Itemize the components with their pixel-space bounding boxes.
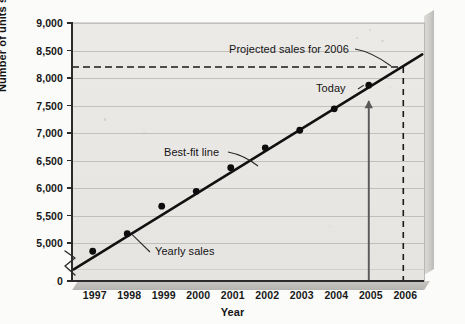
y-axis-line [71, 22, 73, 281]
data-point [296, 127, 303, 134]
data-point [124, 230, 131, 237]
leader-line-projected-sales [355, 49, 391, 66]
data-point [227, 164, 234, 171]
figure-chart-sales-trend: Number of units sold Year 05,0005,5006,0… [0, 0, 465, 324]
scan-speck [356, 37, 358, 39]
panel-bottom-bevel [72, 281, 430, 290]
data-point [193, 188, 200, 195]
leader-line-yearly-sales [132, 235, 150, 252]
y-axis-break-symbol [65, 251, 75, 275]
annotation-best-fit-line: Best-fit line [164, 146, 219, 158]
panel-right-bevel [424, 10, 434, 275]
data-point [262, 144, 269, 151]
scan-speck [104, 118, 106, 121]
data-point [331, 105, 338, 112]
data-point [158, 203, 165, 210]
x-axis-line [72, 280, 424, 282]
annotation-yearly-sales: Yearly sales [155, 245, 215, 257]
today-marker-arrowhead [365, 100, 373, 108]
leader-line-today [358, 85, 364, 89]
data-point [365, 82, 372, 89]
annotation-today: Today [316, 82, 346, 94]
scan-speck [381, 40, 384, 42]
annotation-projected-sales: Projected sales for 2006 [229, 43, 349, 55]
scan-speck [369, 29, 371, 31]
data-point [89, 248, 96, 255]
